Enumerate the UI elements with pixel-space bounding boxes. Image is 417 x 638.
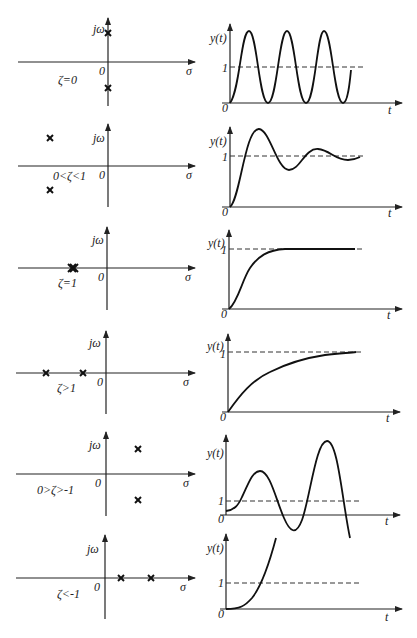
s-plane-4: jω σ 0 ζ>1 (16, 331, 195, 414)
response-plot-2: y(t) 1 0 t (209, 127, 402, 220)
y-label: y(t) (206, 446, 224, 460)
s-plane-1: jω σ 0 ζ=0 (18, 18, 195, 106)
origin-label: 0 (220, 410, 226, 424)
pole-icon (47, 135, 53, 141)
origin-label: 0 (99, 64, 105, 78)
t-label: t (385, 514, 389, 528)
sigma-label: σ (180, 580, 187, 594)
one-label: 1 (222, 150, 228, 164)
origin-label: 0 (222, 101, 228, 115)
response-plot-5: y(t) 1 0 t (206, 435, 400, 538)
one-label: 1 (221, 243, 227, 257)
condition-label: ζ=1 (58, 276, 77, 290)
jw-label: jω (91, 131, 105, 145)
row-zeta-0: jω σ 0 ζ=0 y(t) 1 0 t (18, 18, 402, 117)
t-label: t (385, 610, 389, 624)
one-label: 1 (222, 61, 228, 75)
origin-label: 0 (221, 307, 227, 321)
jw-label: jω (90, 233, 104, 247)
condition-label: ζ=0 (58, 73, 77, 87)
pole-icon (135, 497, 141, 503)
row-critically-damped: jω σ 0 ζ=1 y(t) 1 0 t (18, 227, 402, 322)
jw-label: jω (87, 438, 101, 452)
sigma-label: σ (183, 375, 190, 389)
response-plot-4: y(t) 1 0 t (206, 334, 400, 425)
s-plane-5: jω σ 0 0>ζ>-1 (16, 432, 195, 516)
row-negative-overdamped: jω σ 0 ζ<-1 y(t) 1 0 t (16, 534, 402, 624)
origin-label: 0 (97, 375, 103, 389)
y-label: y(t) (209, 134, 227, 148)
row-negative-underdamped: jω σ 0 0>ζ>-1 y(t) 1 0 t (16, 432, 400, 538)
condition-label: ζ>1 (57, 381, 76, 395)
row-overdamped: jω σ 0 ζ>1 y(t) 1 0 t (16, 331, 400, 425)
row-underdamped: jω σ 0 0<ζ<1 y(t) 1 0 t (18, 124, 402, 220)
s-plane-3: jω σ 0 ζ=1 (18, 227, 195, 310)
damping-ratio-diagram: jω σ 0 ζ=0 y(t) 1 0 t jω σ 0 0<ζ<1 (0, 0, 417, 638)
condition-label: 0>ζ>-1 (37, 483, 74, 497)
s-plane-2: jω σ 0 0<ζ<1 (18, 124, 195, 207)
y-label: y(t) (206, 541, 224, 555)
sigma-label: σ (185, 270, 192, 284)
pole-icon (47, 187, 53, 193)
sigma-label: σ (186, 64, 193, 78)
t-label: t (388, 206, 392, 220)
origin-label: 0 (94, 580, 100, 594)
y-label: y(t) (209, 31, 227, 45)
jw-label: jω (87, 336, 101, 350)
response-curve (228, 352, 356, 412)
jw-label: jω (85, 542, 99, 556)
response-plot-6: y(t) 1 0 t (206, 534, 402, 624)
origin-label: 0 (218, 607, 224, 621)
origin-label: 0 (99, 168, 105, 182)
t-label: t (387, 308, 391, 322)
origin-label: 0 (95, 476, 101, 490)
origin-label: 0 (218, 512, 224, 526)
one-label: 1 (218, 576, 224, 590)
response-curve (226, 538, 276, 609)
pole-icon (135, 446, 141, 452)
response-plot-1: y(t) 1 0 t (209, 24, 402, 117)
jw-label: jω (91, 22, 105, 36)
t-label: t (386, 411, 390, 425)
response-curve (229, 249, 355, 309)
response-curve (226, 441, 350, 538)
origin-label: 0 (222, 205, 228, 219)
condition-label: ζ<-1 (57, 587, 80, 601)
sigma-label: σ (186, 168, 193, 182)
one-label: 1 (218, 494, 224, 508)
sigma-label: σ (183, 476, 190, 490)
origin-label: 0 (98, 270, 104, 284)
response-plot-3: y(t) 1 0 t (207, 230, 402, 322)
condition-label: 0<ζ<1 (53, 169, 86, 183)
t-label: t (388, 103, 392, 117)
one-label: 1 (220, 347, 226, 361)
s-plane-6: jω σ 0 ζ<-1 (16, 535, 195, 619)
response-curve (230, 129, 360, 207)
